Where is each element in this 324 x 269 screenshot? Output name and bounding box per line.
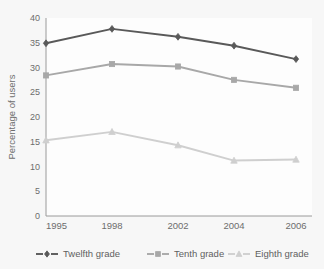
square-marker <box>293 85 298 90</box>
x-tick-label: 1998 <box>101 220 122 231</box>
legend-label: Eighth grade <box>255 248 309 259</box>
legend-label: Tenth grade <box>174 248 224 259</box>
y-tick-label: 30 <box>30 63 40 73</box>
x-tick-label: 2006 <box>285 220 306 231</box>
y-axis-title: Percentage of users <box>6 74 17 159</box>
plot-area-background <box>46 18 312 216</box>
y-tick-label: 0 <box>35 211 40 221</box>
square-marker <box>109 61 114 66</box>
square-marker <box>175 64 180 69</box>
x-tick-label: 1995 <box>46 220 67 231</box>
x-tick-label: 2002 <box>167 220 188 231</box>
y-tick-label: 20 <box>30 112 40 122</box>
y-tick-label: 35 <box>30 38 40 48</box>
y-tick-label: 5 <box>35 186 40 196</box>
chart-figure: 0510152025303540 19951998200220042006 Pe… <box>0 0 324 269</box>
y-tick-label: 10 <box>30 162 40 172</box>
y-tick-label: 15 <box>30 137 40 147</box>
square-marker <box>43 73 48 78</box>
line-chart: 0510152025303540 19951998200220042006 Pe… <box>0 0 324 269</box>
y-tick-label: 25 <box>30 87 40 97</box>
square-marker <box>156 252 161 257</box>
y-tick-label: 40 <box>30 13 40 23</box>
legend-label: Twelfth grade <box>63 248 120 259</box>
x-tick-label: 2004 <box>223 220 244 231</box>
square-marker <box>231 77 236 82</box>
